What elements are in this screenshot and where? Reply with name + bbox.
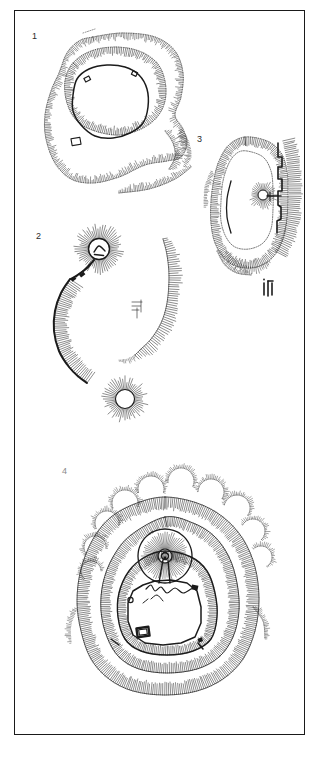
plan-label-4: 4 [62, 467, 67, 476]
plan-label-1: 1 [32, 32, 37, 41]
plate-page: 1 2 3 4 [0, 0, 316, 759]
plan-label-3: 3 [197, 135, 202, 144]
plate-frame: 1 2 3 4 [14, 10, 305, 735]
archaeological-plans-drawing [15, 11, 306, 736]
plan-label-2: 2 [36, 232, 41, 241]
